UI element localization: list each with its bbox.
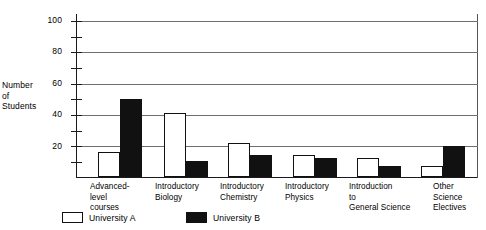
- cat-3-line-0: Introductory: [285, 182, 329, 193]
- y-tick-major-20: [71, 146, 82, 147]
- bar-university-b-introductory-chemistry: [250, 155, 272, 177]
- y-tick-major-60: [71, 84, 82, 85]
- cat-0-line-1: level: [90, 193, 130, 204]
- x-category-label-introductory-biology: Introductory Biology: [155, 182, 199, 203]
- y-tick-major-80: [71, 52, 82, 53]
- y-tick-minor-50: [71, 99, 82, 100]
- gridline-80: [76, 52, 478, 53]
- bar-university-b-introduction-to-general-science: [379, 166, 401, 177]
- legend-swatch-university-b: [186, 212, 207, 223]
- cat-4-line-1: to: [349, 193, 410, 204]
- bar-university-b-other-science-electives: [443, 146, 465, 177]
- cat-5-line-2: Electives: [433, 203, 466, 214]
- y-tick-major-40: [71, 115, 82, 116]
- y-axis-line: [76, 14, 77, 178]
- legend-swatch-university-a: [62, 212, 83, 223]
- bar-university-a-introductory-physics: [293, 155, 315, 177]
- cat-5-line-0: Other: [433, 182, 466, 193]
- bar-university-a-advanced-level-courses: [98, 152, 120, 177]
- plot-area: [76, 14, 478, 178]
- cat-4-line-0: Introduction: [349, 182, 410, 193]
- legend-label-university-b: University B: [213, 213, 260, 223]
- y-tick-label-100: 100: [36, 16, 62, 25]
- y-tick-minor-70: [71, 68, 82, 69]
- x-category-label-other-science-electives: Other Science Electives: [433, 182, 466, 214]
- cat-5-line-1: Science: [433, 193, 466, 204]
- y-tick-major-100: [71, 21, 82, 22]
- y-tick-minor-90: [71, 37, 82, 38]
- cat-2-line-1: Chemistry: [220, 193, 264, 204]
- plot-right-border: [477, 14, 478, 178]
- x-category-label-introduction-to-general-science: Introduction to General Science: [349, 182, 410, 214]
- legend-item-university-b: University B: [186, 212, 260, 223]
- legend-label-university-a: University A: [89, 213, 136, 223]
- bar-university-b-introductory-physics: [315, 158, 337, 177]
- bar-university-a-introductory-chemistry: [228, 143, 250, 177]
- bar-university-b-introductory-biology: [186, 161, 208, 177]
- x-category-label-advanced-level-courses: Advanced- level courses: [90, 182, 130, 214]
- y-tick-label-80: 80: [36, 47, 62, 56]
- cat-2-line-0: Introductory: [220, 182, 264, 193]
- cat-3-line-1: Physics: [285, 193, 329, 204]
- y-tick-label-60: 60: [36, 79, 62, 88]
- bar-university-a-other-science-electives: [421, 166, 443, 177]
- cat-1-line-0: Introductory: [155, 182, 199, 193]
- y-tick-minor-30: [71, 131, 82, 132]
- cat-0-line-0: Advanced-: [90, 182, 130, 193]
- y-tick-label-20: 20: [36, 142, 62, 151]
- bar-chart: Number of Students 100 80 60 40 20: [0, 0, 486, 230]
- y-axis-title-line-2: of: [2, 91, 58, 102]
- bar-university-a-introductory-biology: [164, 113, 186, 177]
- x-axis-line: [76, 177, 478, 178]
- cat-1-line-1: Biology: [155, 193, 199, 204]
- legend-item-university-a: University A: [62, 212, 136, 223]
- cat-4-line-2: General Science: [349, 203, 410, 214]
- bar-university-b-advanced-level-courses: [120, 99, 142, 177]
- x-category-label-introductory-chemistry: Introductory Chemistry: [220, 182, 264, 203]
- x-category-label-introductory-physics: Introductory Physics: [285, 182, 329, 203]
- y-tick-minor-10: [71, 162, 82, 163]
- y-tick-label-40: 40: [36, 110, 62, 119]
- gridline-100: [76, 21, 478, 22]
- bar-university-a-introduction-to-general-science: [357, 158, 379, 177]
- gridline-60: [76, 84, 478, 85]
